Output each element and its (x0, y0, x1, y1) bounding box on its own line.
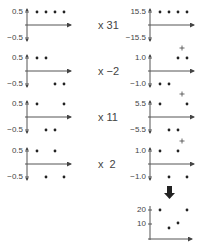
left-panel-2-bottom-label: −0.5 (0, 80, 23, 88)
right-panel-4-top-label: 1.0 (116, 147, 146, 155)
right-panel-1-bottom-label: −15.5 (116, 34, 146, 42)
left-panel-4-top-label: 0.5 (0, 147, 23, 155)
down-arrow-icon (164, 186, 175, 199)
multiplier-1: x 31 (98, 20, 119, 31)
diagram-canvas (0, 0, 202, 248)
left-panel-3-top-label: 0.5 (0, 100, 23, 108)
right-panel-3-top-label: 5.5 (116, 100, 146, 108)
left-panel-4-bottom-label: −0.5 (0, 173, 23, 181)
left-panel-3-bottom-label: −0.5 (0, 126, 23, 134)
right-panel-1-top-label: 15.5 (116, 8, 146, 16)
right-panel-4-bottom-label: −1.0 (116, 173, 146, 181)
right-panel-3-bottom-label: −5.5 (116, 126, 146, 134)
right-panel-2-top-label: 1.0 (116, 54, 146, 62)
left-panel-1-top-label: 0.5 (0, 8, 23, 16)
left-panel-2-top-label: 0.5 (0, 54, 23, 62)
left-panel-1-bottom-label: −0.5 (0, 34, 23, 42)
result-points (159, 209, 189, 230)
result-tick-10: 10 (124, 220, 146, 228)
result-tick-20: 20 (124, 206, 146, 214)
multiplier-4: x 2 (98, 159, 116, 170)
right-panel-2-bottom-label: −1.0 (116, 80, 146, 88)
multiplier-2: x −2 (98, 66, 119, 77)
multiplier-3: x 11 (98, 112, 118, 123)
